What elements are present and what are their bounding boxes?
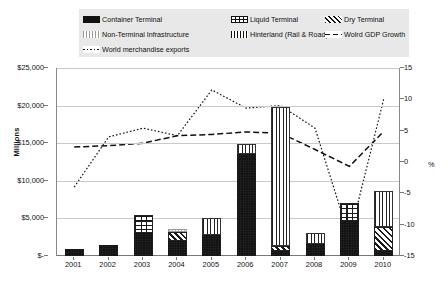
line-series-gdp-growth [74, 131, 384, 166]
y-axis-right-tick: 0 [404, 158, 444, 166]
tick-mark [44, 255, 48, 256]
dry-icon [325, 16, 342, 23]
bar-segment [134, 233, 153, 256]
x-axis-tick-2009: 2009 [331, 260, 365, 269]
bar-segment [202, 218, 221, 236]
x-axis-tick-2006: 2006 [228, 260, 262, 269]
tick-mark [108, 257, 109, 260]
y-axis-left-tick: $15,000 [0, 139, 44, 147]
tick-mark [383, 257, 384, 260]
tick-mark [400, 98, 404, 99]
gridline [57, 143, 399, 144]
x-axis-tick-2010: 2010 [366, 260, 400, 269]
tick-mark [73, 257, 74, 260]
bar-segment [340, 203, 359, 221]
bar-stack-2009 [340, 203, 359, 256]
bar-segment [168, 241, 187, 256]
legend-label: Liquid Terminal [250, 16, 298, 24]
line-series-merchandise-exports [74, 90, 384, 237]
legend-item-container: Container Terminal [83, 12, 162, 27]
bar-stack-2001 [65, 249, 84, 256]
y-axis-right-tick: 10 [404, 95, 444, 103]
x-axis: 2001200220032004200520062007200820092010 [56, 258, 400, 272]
y-axis-right-tick: 15 [404, 64, 444, 72]
bar-stack-2002 [99, 245, 118, 256]
x-axis-tick-2002: 2002 [90, 260, 124, 269]
chart-container: Container TerminalLiquid TerminalDry Ter… [0, 0, 448, 285]
bar-segment [99, 245, 118, 256]
bar-stack-2010 [374, 191, 393, 256]
tick-mark [44, 142, 48, 143]
tick-mark [176, 257, 177, 260]
gridline [57, 68, 399, 69]
legend-item-nonterminal: Non-Terminal Infrastructure [83, 27, 189, 42]
y-axis-left-tick: $10,000 [0, 177, 44, 185]
bar-segment [65, 249, 84, 256]
gridline [57, 106, 399, 107]
legend-item-gdp-line: Wolrd GDP Growth [325, 27, 405, 42]
legend-item-hinterland: Hinterland (Rail & Road) [231, 27, 328, 42]
y-axis-right-tick: -5 [404, 189, 444, 197]
tick-mark [44, 180, 48, 181]
exports-line-icon [83, 46, 100, 53]
bar-stack-2006 [237, 144, 256, 256]
bar-segment [340, 221, 359, 256]
legend-label: World merchandise exports [102, 46, 189, 54]
bar-stack-2003 [134, 215, 153, 256]
y-axis-left-tick: $25,000 [0, 64, 44, 72]
gdp-line-icon [325, 31, 342, 38]
tick-mark [142, 257, 143, 260]
tick-mark [211, 257, 212, 260]
x-axis-tick-2004: 2004 [159, 260, 193, 269]
legend-label: Wolrd GDP Growth [344, 31, 405, 39]
tick-mark [348, 257, 349, 260]
bar-segment [306, 244, 325, 256]
tick-mark [44, 67, 48, 68]
x-axis-tick-2003: 2003 [125, 260, 159, 269]
tick-mark [400, 255, 404, 256]
tick-mark [400, 161, 404, 162]
bar-segment [374, 227, 393, 251]
tick-mark [400, 67, 404, 68]
legend-label: Hinterland (Rail & Road) [250, 31, 328, 39]
y-axis-right-tick: -15 [404, 252, 444, 260]
tick-mark [280, 257, 281, 260]
x-axis-tick-2005: 2005 [194, 260, 228, 269]
tick-mark [245, 257, 246, 260]
hinterland-icon [231, 31, 248, 38]
legend-item-exports-line: World merchandise exports [83, 42, 189, 57]
y-axis-left-tick: $5,000 [0, 214, 44, 222]
legend-item-dry: Dry Terminal [325, 12, 384, 27]
bar-segment [271, 251, 290, 256]
bar-segment [374, 191, 393, 227]
bar-segment [374, 251, 393, 256]
nonterminal-icon [83, 31, 100, 38]
gridline [57, 181, 399, 182]
y-axis-left-tick: $20,000 [0, 102, 44, 110]
plot-area [56, 68, 400, 256]
tick-mark [44, 105, 48, 106]
x-axis-tick-2001: 2001 [56, 260, 90, 269]
legend-label: Container Terminal [102, 16, 162, 24]
y-axis-right-tick: 5 [404, 127, 444, 135]
chart-legend: Container TerminalLiquid TerminalDry Ter… [79, 9, 409, 57]
y-axis-right-tick: -10 [404, 221, 444, 229]
legend-label: Dry Terminal [344, 16, 384, 24]
container-icon [83, 16, 100, 23]
tick-mark [44, 217, 48, 218]
bar-segment [202, 235, 221, 256]
y-axis-left-tick: $- [0, 252, 44, 260]
bar-segment [271, 107, 290, 245]
bar-segment [237, 154, 256, 256]
tick-mark [400, 224, 404, 225]
tick-mark [314, 257, 315, 260]
tick-mark [400, 192, 404, 193]
bar-stack-2008 [306, 233, 325, 256]
bar-stack-2007 [271, 107, 290, 256]
x-axis-tick-2008: 2008 [297, 260, 331, 269]
bar-segment [237, 144, 256, 155]
tick-mark [400, 130, 404, 131]
bar-segment [168, 232, 187, 242]
legend-item-liquid: Liquid Terminal [231, 12, 298, 27]
bar-segment [134, 215, 153, 233]
